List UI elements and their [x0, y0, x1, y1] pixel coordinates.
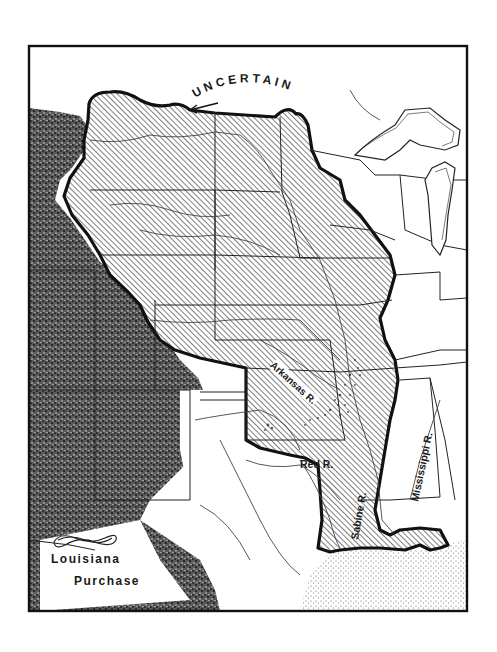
- uncertain-annotation: UNCERTAIN: [190, 71, 296, 113]
- uncertain-label: UNCERTAIN: [190, 71, 296, 100]
- louisiana-purchase-map: UNCERTAIN Arkansas R. Red R. Sabine R. M…: [0, 0, 497, 652]
- lake-superior: [355, 108, 460, 160]
- legend-line2: Purchase: [74, 574, 140, 588]
- mississippi-river-label: Mississippi R.: [408, 431, 434, 502]
- svg-text:UNCERTAIN: UNCERTAIN: [190, 71, 296, 100]
- lake-michigan: [425, 162, 455, 255]
- legend-line1: Louisiana: [51, 552, 121, 566]
- red-river-label: Red R.: [300, 458, 333, 470]
